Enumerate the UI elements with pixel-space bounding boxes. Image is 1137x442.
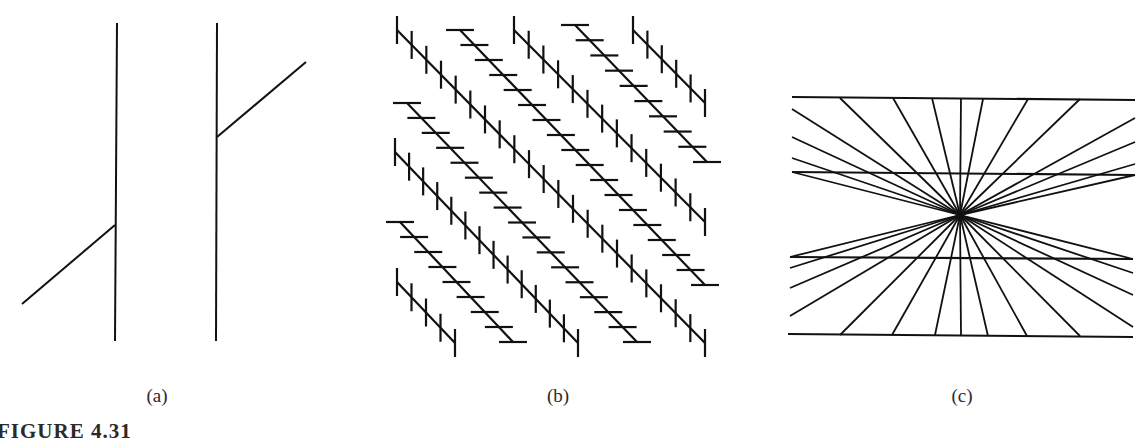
illusion-line (216, 23, 217, 341)
radial-ray (932, 98, 960, 215)
radial-ray (960, 215, 1133, 259)
panel-a-poggendorff-illusion (22, 23, 306, 341)
horizontal-line (792, 97, 1135, 100)
radial-ray (960, 215, 961, 335)
radial-ray (960, 98, 961, 215)
panel-c-hering-illusion (788, 97, 1135, 337)
radial-ray (935, 215, 960, 335)
radial-ray (792, 158, 960, 215)
radial-ray (960, 175, 1135, 215)
illusion-line (115, 23, 117, 341)
radial-ray (792, 137, 960, 215)
radial-ray (893, 98, 960, 215)
radial-ray (960, 215, 1080, 336)
illusion-line (217, 62, 306, 137)
radial-ray (960, 215, 1133, 273)
panel-label-b: (b) (547, 386, 569, 405)
horizontal-line (788, 334, 1133, 337)
radial-ray (960, 215, 1133, 295)
diagonal-line (460, 30, 705, 285)
radial-ray (960, 215, 988, 336)
panel-b-zollner-illusion (386, 16, 721, 357)
radial-ray (960, 118, 1135, 215)
radial-ray (792, 172, 960, 215)
radial-ray (960, 215, 1133, 327)
radial-ray (840, 98, 960, 215)
horizontal-line (790, 257, 1133, 259)
diagonal-line (575, 25, 707, 162)
radial-ray (960, 99, 983, 215)
diagonal-line (633, 30, 705, 103)
illusion-line (22, 225, 115, 304)
figure-caption: FIGURE 4.31 (0, 421, 132, 442)
radial-ray (792, 109, 960, 215)
diagonal-line (397, 30, 705, 343)
panel-label-c: (c) (951, 386, 972, 405)
radial-ray (960, 142, 1135, 215)
panel-label-a: (a) (146, 386, 167, 405)
